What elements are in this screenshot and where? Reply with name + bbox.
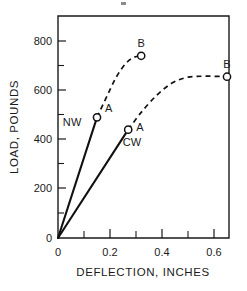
nw-series-label: NW	[63, 116, 82, 128]
x-tick-label-0-2: 0.2	[102, 246, 117, 258]
y-tick-label-800: 800	[34, 35, 52, 47]
cw-point-a-label: A	[136, 121, 144, 133]
nw-point-b-label: B	[138, 37, 145, 49]
nw-marker-a	[93, 114, 100, 121]
scan-artifact	[121, 2, 126, 5]
cw-series-label: CW	[123, 136, 142, 148]
y-tick-label-600: 600	[34, 84, 52, 96]
x-tick-label-0-4: 0.4	[154, 246, 169, 258]
y-tick-label-0: 0	[46, 232, 52, 244]
nw-point-a-label: A	[105, 102, 113, 114]
chart-svg: 800 600 400 200 0 0 0.2 0.4 0.6 A B NW	[0, 0, 247, 291]
x-axis-title: DEFLECTION, INCHES	[76, 266, 209, 278]
chart-figure: 800 600 400 200 0 0 0.2 0.4 0.6 A B NW	[0, 0, 247, 291]
y-axis-title: LOAD, POUNDS	[8, 80, 20, 174]
y-tick-label-400: 400	[34, 133, 52, 145]
x-tick-label-0: 0	[55, 246, 61, 258]
x-tick-label-0-6: 0.6	[206, 246, 221, 258]
cw-marker-b	[223, 73, 230, 80]
cw-point-b-label: B	[223, 58, 230, 70]
y-tick-label-200: 200	[34, 182, 52, 194]
cw-marker-a	[125, 126, 132, 133]
nw-marker-b	[138, 52, 145, 59]
